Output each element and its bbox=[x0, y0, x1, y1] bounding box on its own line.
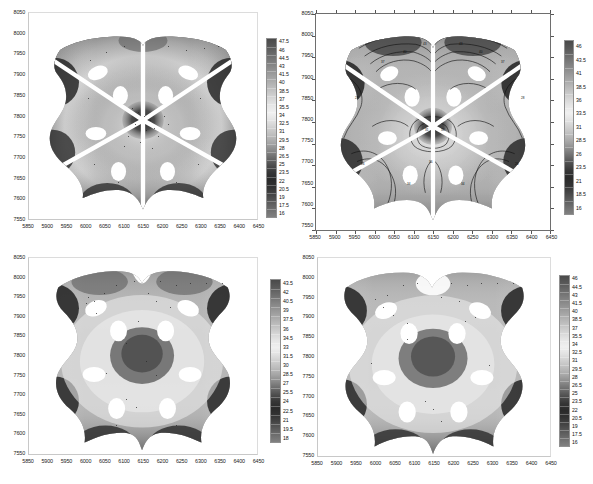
colorbar-band-rule bbox=[560, 373, 569, 374]
colorbar-tick-label: 26 bbox=[576, 152, 582, 157]
colorbar-tick-label: 18 bbox=[283, 436, 289, 441]
colorbar-band-rule bbox=[271, 379, 280, 380]
colorbar-band-rule bbox=[271, 424, 280, 425]
colorbar-band-rule bbox=[565, 187, 573, 188]
colorbar-tick-label: 33 bbox=[283, 345, 289, 350]
colorbar-tick-label: 41 bbox=[576, 71, 582, 76]
colorbar-tick-label: 23.5 bbox=[572, 399, 582, 404]
colorbar-band-rule bbox=[560, 414, 569, 415]
colorbar-tick-label: 35.5 bbox=[572, 334, 582, 339]
colorbar-band-rule bbox=[560, 333, 569, 334]
axis-tick-mark bbox=[433, 10, 434, 13]
panel-1-contour-field bbox=[30, 14, 256, 218]
colorbar-band-rule bbox=[267, 136, 276, 137]
colorbar-band-rule bbox=[267, 193, 276, 194]
colorbar-tick-label: 47.5 bbox=[279, 39, 289, 44]
colorbar-tick-label: 34 bbox=[279, 113, 285, 118]
colorbar-tick-label: 43.5 bbox=[576, 58, 586, 63]
colorbar-tick-label: 29.5 bbox=[279, 138, 289, 143]
colorbar-tick-label: 40 bbox=[279, 80, 285, 85]
colorbar-band-rule bbox=[267, 88, 276, 89]
colorbar-band-rule bbox=[271, 316, 280, 317]
panel-1-colorbar-ticks: 47.54644.54341.54038.53735.53432.53129.5… bbox=[279, 38, 299, 218]
colorbar-band-rule bbox=[271, 343, 280, 344]
colorbar-band-rule bbox=[560, 341, 569, 342]
colorbar-band-rule bbox=[271, 334, 280, 335]
axis-tick-mark bbox=[312, 79, 315, 80]
colorbar-tick-label: 18.5 bbox=[576, 192, 586, 197]
colorbar-tick-label: 16 bbox=[279, 211, 285, 216]
axis-tick-mark bbox=[551, 208, 554, 209]
colorbar-tick-label: 31 bbox=[572, 358, 578, 363]
colorbar-band-rule bbox=[560, 397, 569, 398]
axis-tick-mark bbox=[355, 10, 356, 13]
colorbar-band-rule bbox=[267, 120, 276, 121]
colorbar-tick-label: 29.5 bbox=[572, 367, 582, 372]
colorbar-band-rule bbox=[267, 104, 276, 105]
colorbar-band-rule bbox=[267, 96, 276, 97]
colorbar-tick-label: 19.5 bbox=[283, 427, 293, 432]
colorbar-tick-label: 38.5 bbox=[576, 85, 586, 90]
colorbar-tick-label: 28 bbox=[572, 375, 578, 380]
colorbar-tick-label: 16 bbox=[576, 206, 582, 211]
colorbar-tick-label: 28.5 bbox=[283, 372, 293, 377]
colorbar-tick-label: 25.5 bbox=[283, 390, 293, 395]
colorbar-band-rule bbox=[560, 357, 569, 358]
colorbar-tick-label: 34.5 bbox=[283, 336, 293, 341]
axis-tick-mark bbox=[312, 165, 315, 166]
colorbar-tick-label: 35.5 bbox=[279, 105, 289, 110]
colorbar-tick-label: 27 bbox=[283, 381, 289, 386]
colorbar-band-rule bbox=[560, 325, 569, 326]
axis-tick-mark bbox=[551, 57, 554, 58]
colorbar-band-rule bbox=[267, 209, 276, 210]
colorbar-tick-label: 22 bbox=[572, 408, 578, 413]
panel-3-axes: 8050 8000 7950 7900 7850 7800 7750 7700 … bbox=[28, 257, 258, 455]
colorbar-band-rule bbox=[271, 325, 280, 326]
axis-tick-mark bbox=[336, 10, 337, 13]
colorbar-band-rule bbox=[565, 54, 573, 55]
colorbar-tick-label: 25 bbox=[279, 162, 285, 167]
axis-tick-mark bbox=[551, 122, 554, 123]
colorbar-band-rule bbox=[267, 55, 276, 56]
colorbar-band-rule bbox=[267, 47, 276, 48]
colorbar-tick-label: 31 bbox=[279, 129, 285, 134]
colorbar-tick-label: 46 bbox=[572, 276, 578, 281]
colorbar-band-rule bbox=[271, 289, 280, 290]
axis-tick-mark bbox=[312, 100, 315, 101]
panel-1-axes: 8050 8000 7950 7900 7850 7800 7750 7700 … bbox=[28, 12, 258, 220]
panel-1-colorbar-strip bbox=[266, 38, 277, 218]
colorbar-tick-label: 24 bbox=[283, 399, 289, 404]
colorbar-tick-label: 23.5 bbox=[279, 170, 289, 175]
colorbar-tick-label: 33.5 bbox=[576, 111, 586, 116]
colorbar-band-rule bbox=[271, 307, 280, 308]
panel-4: 8050 8000 7950 7900 7850 7800 7750 7700 … bbox=[297, 245, 593, 484]
axis-tick-mark bbox=[531, 10, 532, 13]
panel-4-axes: 8050 8000 7950 7900 7850 7800 7750 7700 … bbox=[317, 257, 551, 457]
colorbar-band-rule bbox=[565, 174, 573, 175]
axis-tick-mark bbox=[375, 10, 376, 13]
colorbar-band-rule bbox=[560, 389, 569, 390]
colorbar-band-rule bbox=[560, 292, 569, 293]
colorbar-tick-label: 43 bbox=[572, 293, 578, 298]
colorbar-tick-label: 30 bbox=[283, 363, 289, 368]
panel-3: 8050 8000 7950 7900 7850 7800 7750 7700 … bbox=[0, 245, 296, 484]
colorbar-tick-label: 38.5 bbox=[279, 89, 289, 94]
panel-1: 8050 8000 7950 7900 7850 7800 7750 7700 … bbox=[0, 0, 296, 242]
colorbar-tick-label: 32.5 bbox=[279, 121, 289, 126]
colorbar-tick-label: 26.5 bbox=[279, 154, 289, 159]
colorbar-band-rule bbox=[565, 68, 573, 69]
panel-3-colorbar: 43.54240.53937.53634.53331.53028.52725.5… bbox=[270, 279, 281, 443]
colorbar-band-rule bbox=[267, 71, 276, 72]
colorbar-band-rule bbox=[560, 365, 569, 366]
colorbar-tick-label: 38.5 bbox=[572, 317, 582, 322]
colorbar-band-rule bbox=[560, 308, 569, 309]
axis-tick-mark bbox=[312, 187, 315, 188]
axis-tick-mark bbox=[550, 10, 551, 13]
colorbar-band-rule bbox=[565, 81, 573, 82]
panel-3-contour-field bbox=[30, 259, 256, 453]
colorbar-tick-label: 32.5 bbox=[572, 350, 582, 355]
colorbar-band-rule bbox=[271, 415, 280, 416]
colorbar-band-rule bbox=[271, 433, 280, 434]
colorbar-band-rule bbox=[560, 284, 569, 285]
axis-tick-mark bbox=[492, 10, 493, 13]
